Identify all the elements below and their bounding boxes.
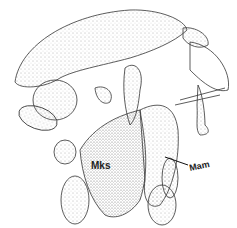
- structure-mks: [80, 110, 146, 217]
- carapace: [15, 10, 187, 87]
- anatomical-illustration: Mks Mam: [0, 0, 237, 228]
- label-mks: Mks: [91, 160, 111, 171]
- label-mam: Mam: [188, 159, 210, 173]
